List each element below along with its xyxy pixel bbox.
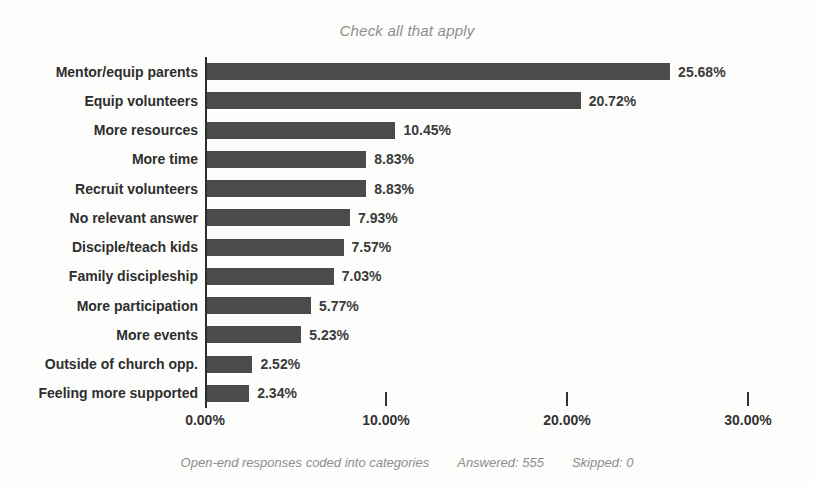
bar-row: 8.83% [207, 174, 748, 203]
bar [207, 63, 670, 80]
bar [207, 297, 311, 314]
x-tick [385, 392, 387, 406]
category-label: More events [0, 320, 198, 349]
category-label: Outside of church opp. [0, 350, 198, 379]
category-label: Equip volunteers [0, 86, 198, 115]
category-label: More participation [0, 291, 198, 320]
bar-row: 10.45% [207, 116, 748, 145]
chart-title: Check all that apply [0, 22, 814, 39]
value-label: 25.68% [678, 64, 725, 80]
plot-area: 25.68% 20.72% 10.45% 8.83% 8.83% 7.93% 7… [205, 57, 748, 408]
x-axis: 0.00% 10.00% 20.00% 30.00% [205, 392, 748, 440]
value-label: 7.57% [352, 239, 392, 255]
value-label: 7.03% [342, 268, 382, 284]
category-label: Mentor/equip parents [0, 57, 198, 86]
x-tick-label: 10.00% [362, 412, 409, 428]
x-tick-label: 20.00% [543, 412, 590, 428]
bar [207, 122, 395, 139]
bar-row: 5.23% [207, 320, 748, 349]
footer-answered: Answered: 555 [457, 455, 544, 470]
category-label: Feeling more supported [0, 379, 198, 408]
bar-row: 8.83% [207, 145, 748, 174]
bar [207, 356, 252, 373]
value-label: 8.83% [374, 151, 414, 167]
bar-row: 7.57% [207, 233, 748, 262]
value-label: 7.93% [358, 210, 398, 226]
x-tick-label: 0.00% [185, 412, 225, 428]
category-label: No relevant answer [0, 203, 198, 232]
value-label: 20.72% [589, 93, 636, 109]
bar-row: 20.72% [207, 86, 748, 115]
footer-note: Open-end responses coded into categories [181, 455, 430, 470]
bar-row: 7.03% [207, 262, 748, 291]
bar [207, 209, 350, 226]
value-label: 2.52% [260, 356, 300, 372]
bar-row: 2.52% [207, 350, 748, 379]
category-label: Recruit volunteers [0, 174, 198, 203]
bar-row: 7.93% [207, 203, 748, 232]
bar [207, 326, 301, 343]
footer-skipped: Skipped: 0 [572, 455, 633, 470]
category-label: More resources [0, 116, 198, 145]
category-label: Family discipleship [0, 262, 198, 291]
x-tick [747, 392, 749, 406]
value-label: 8.83% [374, 181, 414, 197]
bar-row: 25.68% [207, 57, 748, 86]
category-label: More time [0, 145, 198, 174]
bar [207, 239, 344, 256]
chart-frame: Check all that apply Mentor/equip parent… [0, 0, 814, 484]
bar-row: 5.77% [207, 291, 748, 320]
value-label: 10.45% [403, 122, 450, 138]
bar [207, 92, 581, 109]
chart-footer: Open-end responses coded into categories… [0, 455, 814, 470]
x-tick [566, 392, 568, 406]
category-axis: Mentor/equip parents Equip volunteers Mo… [0, 57, 198, 408]
bar [207, 151, 366, 168]
bar [207, 180, 366, 197]
bar [207, 268, 334, 285]
value-label: 5.23% [309, 327, 349, 343]
category-label: Disciple/teach kids [0, 233, 198, 262]
x-tick-label: 30.00% [724, 412, 771, 428]
value-label: 5.77% [319, 298, 359, 314]
